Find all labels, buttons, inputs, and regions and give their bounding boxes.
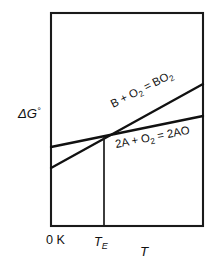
x-tick-eutectic: TE — [94, 235, 109, 251]
x-tick-eutectic-subscript: E — [102, 241, 109, 251]
series-label-ao: 2A + O2 = 2AO — [114, 124, 191, 153]
series-label-bo2: B + O2 = BO2 — [108, 68, 176, 112]
series-label-bo2-part-2: = BO — [139, 70, 171, 94]
x-axis-label: T — [140, 244, 149, 259]
series-label-ao-part-0: 2A + O — [114, 131, 151, 150]
series-label-bo2-part-0: B + O — [108, 86, 140, 110]
series-label-ao-part-2: = 2AO — [153, 124, 191, 143]
ellingham-diagram: ΔG° T 0 K TE B + O2 = BO2 2A + O2 = 2AO — [0, 0, 215, 266]
y-axis-label-text: ΔG — [17, 106, 37, 121]
series-label-bo2-group: B + O2 = BO2 — [108, 68, 176, 112]
x-tick-zero-kelvin: 0 K — [46, 233, 66, 247]
y-axis-degree-icon: ° — [37, 106, 41, 116]
y-axis-label: ΔG° — [17, 106, 41, 121]
figure-container: ΔG° T 0 K TE B + O2 = BO2 2A + O2 = 2AO — [0, 0, 215, 266]
series-label-bo2-part-3: 2 — [168, 73, 177, 83]
series-label-ao-group: 2A + O2 = 2AO — [114, 124, 191, 153]
